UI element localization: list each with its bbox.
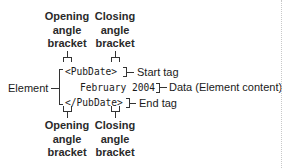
connector-lines <box>0 0 288 168</box>
end-tag-bracket <box>126 99 137 108</box>
top-opening-pointer <box>64 51 72 62</box>
divider-line <box>281 0 282 168</box>
bottom-opening-pointer <box>64 106 72 118</box>
top-closing-pointer <box>112 51 120 62</box>
data-bracket <box>156 84 168 93</box>
element-bracket <box>51 70 63 105</box>
start-tag-bracket <box>123 68 135 77</box>
bottom-closing-pointer <box>112 106 120 118</box>
